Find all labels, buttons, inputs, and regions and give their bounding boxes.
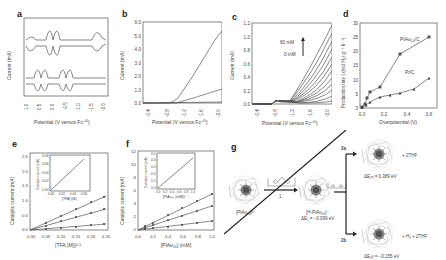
svg-text:-1.5: -1.5 xyxy=(89,103,94,111)
panel-b-plot: 0.0 1.0 2.0 3.0 4.0 5.0 6.0 Current (mA)… xyxy=(112,0,222,130)
panel-label-a: a xyxy=(17,9,22,19)
panel-label-c: c xyxy=(232,12,237,22)
xticks-b: -0.4 -0.8 -1.2 -1.6 -2.0 xyxy=(146,109,221,117)
inset-xticks-f: 0.0 0.2 0.4 0.6 0.8 1.0 xyxy=(156,190,196,194)
svg-text:0.1: 0.1 xyxy=(151,179,156,183)
yticks-d: 0 5 10 15 20 25 30 xyxy=(353,21,359,111)
panel-g: g [PtAu₂₄]²⁻ xyxy=(224,130,446,260)
svg-text:-0.8: -0.8 xyxy=(165,109,170,117)
svg-text:-0.8: -0.8 xyxy=(273,109,278,117)
svg-text:20: 20 xyxy=(353,49,359,54)
svg-text:0.8: 0.8 xyxy=(195,234,202,239)
branch-b-label: 2b xyxy=(341,238,347,243)
svg-text:0.2: 0.2 xyxy=(163,190,168,194)
svg-text:1.0: 1.0 xyxy=(24,103,29,110)
arrow-2b-icon xyxy=(353,232,357,237)
inset-yticks-e: 0.00 0.02 0.04 0.06 0.08 xyxy=(42,154,49,192)
panel-e-plot: 0.0 0.5 1.0 1.5 2.0 2.5 0.00 0.02 0.04 0… xyxy=(0,130,112,260)
legend-ptc: Pt/C xyxy=(405,69,415,75)
svg-text:0.00: 0.00 xyxy=(27,234,36,239)
ylabel-b: Current (mA) xyxy=(119,51,125,80)
panel-label-b: b xyxy=(122,9,128,19)
yticks-f: 0 2 4 6 8 10 12 xyxy=(131,149,136,232)
markers-ptau24 xyxy=(361,36,431,109)
annotation-60mm: 60 mM xyxy=(280,40,294,45)
svg-text:25: 25 xyxy=(353,35,359,40)
svg-text:0: 0 xyxy=(134,227,137,232)
panel-label-d: d xyxy=(343,9,349,19)
inset-xlabel-f: [PtAu₂₄ (mM)]¹ᐟ² xyxy=(163,195,190,199)
svg-text:0.2: 0.2 xyxy=(381,112,388,117)
xticks-a: 1.0 0.5 0.0 -0.5 -1.0 -1.5 -2.0 xyxy=(24,102,106,111)
ylabel-f: Catalytic current (mA) xyxy=(119,176,125,225)
inset-ylabel-e: Catalytic current (mA) xyxy=(36,159,40,190)
svg-text:1.2: 1.2 xyxy=(244,21,251,26)
svg-text:1.0: 1.0 xyxy=(209,234,216,239)
panel-c-plot: 0.0 0.2 0.4 0.6 0.8 1.0 1.2 60 mM 0 mM C… xyxy=(222,0,332,130)
svg-text:1.0: 1.0 xyxy=(244,35,251,40)
svg-text:0.4: 0.4 xyxy=(165,234,172,239)
svg-text:10: 10 xyxy=(353,78,359,83)
cluster-product-a xyxy=(362,140,393,168)
xlabel-f: [PtAu₂₄] (mM) xyxy=(161,242,192,248)
panel-label-f: f xyxy=(126,139,129,149)
svg-text:-0.5: -0.5 xyxy=(63,102,68,110)
svg-text:0.2: 0.2 xyxy=(150,234,157,239)
ylabel-d: Production rate ( (mol H₂) g⁻¹ h⁻¹) xyxy=(341,37,346,108)
xlabel-e: [TFA (M)]¹ᐟ² xyxy=(55,242,81,248)
panel-label-e: e xyxy=(12,139,17,149)
panel-a: a Current (mA) 1.0 0.5 0.0 -0.5 -1.0 -1.… xyxy=(0,0,112,130)
svg-text:2.0: 2.0 xyxy=(22,169,29,174)
xlabel-c: Potential (V versus Fc+/0) xyxy=(262,120,318,126)
xticks-e: 0.00 0.05 0.10 0.15 0.20 0.25 xyxy=(27,234,111,239)
ylabel-a: Current (mA) xyxy=(6,51,12,80)
panel-c: c 0.0 0.2 0.4 0.6 0.8 1.0 1.2 60 mM 0 xyxy=(222,0,332,130)
svg-text:0.08: 0.08 xyxy=(42,154,49,158)
svg-text:0.0: 0.0 xyxy=(50,103,55,110)
svg-text:-1.2: -1.2 xyxy=(290,109,295,117)
svg-text:-0.4: -0.4 xyxy=(146,109,151,117)
xlabel-d: Overpotential (V) xyxy=(379,119,417,125)
inset-xlabel-e: [TFA] (M) xyxy=(62,197,77,201)
panel-b: b 0.0 1.0 2.0 3.0 4.0 5.0 6.0 Current (m… xyxy=(112,0,222,130)
svg-text:0.4: 0.4 xyxy=(404,112,411,117)
svg-text:-2.0: -2.0 xyxy=(101,103,106,111)
svg-text:0.6: 0.6 xyxy=(426,112,433,117)
svg-text:2: 2 xyxy=(134,214,137,219)
svg-text:0.5: 0.5 xyxy=(22,213,29,218)
svg-text:-1.2: -1.2 xyxy=(182,109,187,117)
svg-text:0.5: 0.5 xyxy=(37,103,42,110)
svg-text:0.06: 0.06 xyxy=(42,162,49,166)
panel-g-scheme: [PtAu₂₄]²⁻ 1 [H-PtAu₂₄]⁻ ΔE₁ = −0.099 eV… xyxy=(224,130,446,260)
annotation-0mm: 0 mM xyxy=(284,52,296,57)
svg-text:0.4: 0.4 xyxy=(244,75,251,80)
arrowhead-icon xyxy=(301,37,305,41)
product-a: + 2THF xyxy=(402,153,417,158)
svg-text:4: 4 xyxy=(134,201,137,206)
svg-text:3.0: 3.0 xyxy=(135,61,142,66)
yticks-b: 0.0 1.0 2.0 3.0 4.0 5.0 6.0 xyxy=(135,20,142,106)
panel-a-plot: Current (mA) 1.0 0.5 0.0 -0.5 -1.0 -1.5 … xyxy=(0,0,112,130)
svg-text:0.00: 0.00 xyxy=(48,192,55,196)
svg-text:0: 0 xyxy=(355,106,358,111)
svg-text:0.2: 0.2 xyxy=(244,89,251,94)
cluster-h-ptau24 xyxy=(299,176,330,204)
xticks-f: 0.0 0.2 0.4 0.6 0.8 1.0 xyxy=(135,234,216,239)
mid-label: [H-PtAu₂₄]⁻ xyxy=(306,210,330,215)
branch-a-label: 2a xyxy=(341,146,347,151)
svg-text:0.0: 0.0 xyxy=(135,234,142,239)
svg-text:0.0: 0.0 xyxy=(156,190,161,194)
panel-e: e 0.0 0.5 1.0 1.5 2.0 2.5 0.00 0.02 0.04… xyxy=(0,130,112,260)
svg-text:6: 6 xyxy=(134,188,137,193)
svg-text:-2.0: -2.0 xyxy=(216,109,221,117)
svg-text:1.5: 1.5 xyxy=(22,183,29,188)
svg-text:-1.6: -1.6 xyxy=(308,109,313,117)
ylabel-c: Current (mA) xyxy=(229,51,235,80)
svg-text:-2.0: -2.0 xyxy=(325,109,330,117)
curve-family-c xyxy=(252,25,332,104)
xticks-d: 0.0 0.2 0.4 0.6 xyxy=(359,112,433,117)
product-b-energy: ΔE₂ᵦ = −0.155 eV xyxy=(364,254,399,259)
inset-yticks-f: 0.0 0.1 0.2 0.3 0.4 0.5 xyxy=(151,152,156,190)
svg-text:10: 10 xyxy=(131,162,136,167)
svg-text:0.6: 0.6 xyxy=(180,234,187,239)
